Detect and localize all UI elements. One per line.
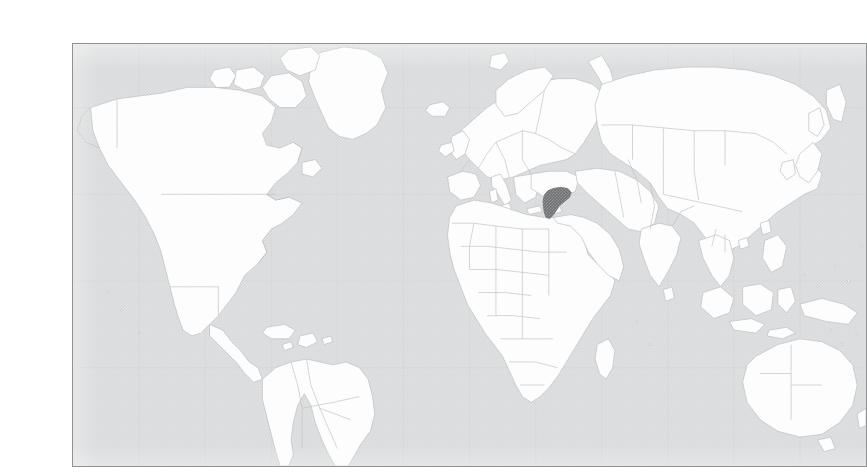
landmass-banks-island bbox=[210, 67, 236, 87]
landmass-lesser-sunda bbox=[767, 327, 796, 339]
landmass-greenland bbox=[309, 47, 388, 139]
landmass-australia bbox=[743, 339, 858, 437]
landmass-sumatra bbox=[701, 287, 734, 319]
landmass-iceland bbox=[425, 102, 449, 116]
landmass-sri-lanka bbox=[663, 287, 674, 301]
landmass-iberia bbox=[447, 171, 480, 200]
locator-map-figure bbox=[72, 43, 867, 467]
landmass-philippines bbox=[762, 235, 786, 273]
landmass-hispaniola bbox=[298, 333, 318, 347]
landmass-cuba bbox=[262, 324, 295, 338]
landmass-victoria-island bbox=[234, 67, 265, 90]
landmass-borneo bbox=[743, 284, 774, 316]
landmass-newfoundland bbox=[302, 160, 322, 177]
landmass-tasmania bbox=[818, 437, 836, 451]
landmass-india bbox=[639, 223, 681, 287]
landmass-svalbard bbox=[489, 53, 509, 70]
landmass-sulawesi bbox=[778, 287, 796, 313]
landmass-north-america bbox=[91, 87, 302, 336]
landmass-indochina bbox=[699, 235, 734, 287]
landmass-new-guinea bbox=[800, 298, 857, 324]
landmass-crete bbox=[527, 206, 542, 215]
landmass-kamchatka bbox=[826, 84, 846, 122]
landmass-taiwan bbox=[760, 220, 771, 234]
landmass-jamaica bbox=[282, 342, 293, 351]
world-map-svg bbox=[73, 44, 866, 466]
landmass-puerto-rico bbox=[322, 336, 333, 345]
landmass-central-america bbox=[210, 324, 263, 382]
landmass-new-zealand-north bbox=[857, 408, 866, 428]
landmass-java bbox=[729, 319, 764, 333]
landmass-south-america bbox=[262, 359, 374, 466]
land-layer bbox=[77, 47, 866, 466]
highlighted-country-syria bbox=[543, 187, 571, 218]
landmass-madagascar bbox=[595, 339, 615, 379]
landmass-ireland bbox=[439, 142, 454, 156]
